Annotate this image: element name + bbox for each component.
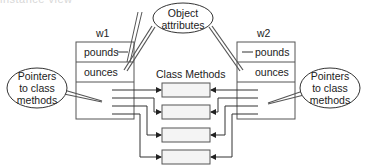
- w2-attr-pounds: pounds: [255, 46, 289, 58]
- w1-attr-ounces: ounces: [84, 66, 118, 78]
- w2-attr-ounces: ounces: [255, 66, 289, 78]
- class-methods-title: Class Methods: [156, 68, 225, 80]
- callout-object-attributes-text: Object attributes: [153, 7, 213, 31]
- object-name-w2: w2: [257, 27, 270, 39]
- w1-attr-pounds: pounds: [84, 46, 118, 58]
- callout-pointers-right-text: Pointers to class methods: [300, 70, 360, 106]
- class-method-boxes: [162, 83, 210, 164]
- object-name-w1: w1: [96, 27, 109, 39]
- callout-pointers-left-text: Pointers to class methods: [7, 70, 67, 106]
